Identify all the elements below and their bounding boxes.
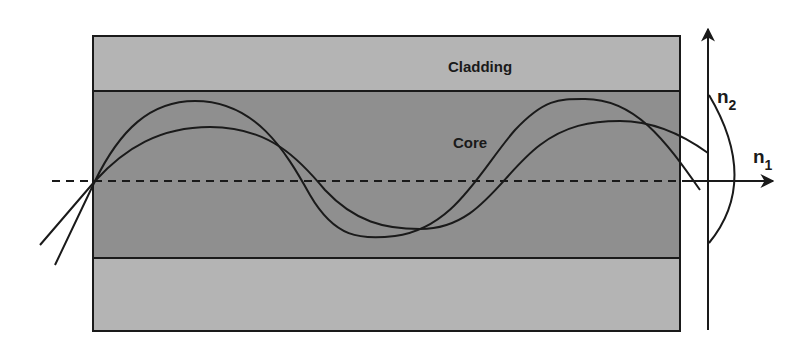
core-label: Core bbox=[453, 134, 487, 151]
n2-label: n2 bbox=[717, 86, 737, 113]
index-profile-curve bbox=[709, 95, 735, 243]
fiber-diagram: Cladding Core n2 n1 bbox=[0, 0, 806, 339]
n1-label: n1 bbox=[753, 146, 773, 173]
core-region bbox=[93, 91, 680, 258]
cladding-label: Cladding bbox=[448, 58, 512, 75]
